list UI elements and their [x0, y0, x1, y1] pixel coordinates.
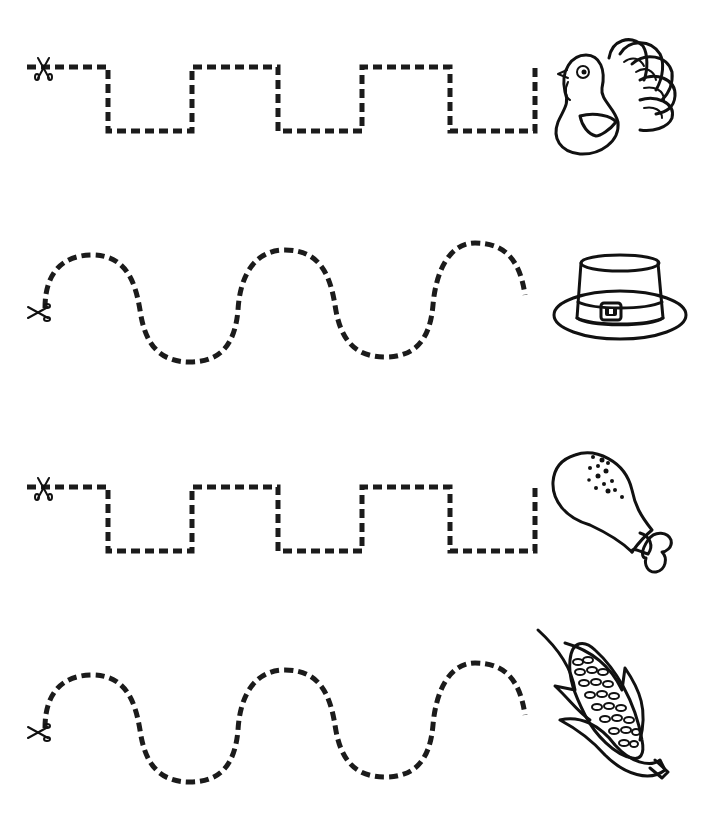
turkey-drumstick-picture — [553, 453, 671, 572]
row-4-curved-wave — [28, 663, 525, 782]
corn-cob-picture — [538, 630, 668, 778]
row-2-curved-wave — [28, 243, 525, 362]
turkey-picture — [556, 40, 675, 154]
row-1-square-wave — [27, 58, 535, 131]
row-3-square-wave — [27, 478, 535, 551]
cutting-worksheet — [0, 0, 723, 830]
pilgrim-hat-picture — [554, 255, 686, 339]
